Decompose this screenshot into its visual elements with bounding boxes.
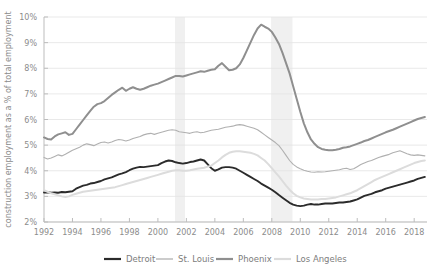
x-tick-label: 1992 <box>34 228 54 237</box>
y-tick-label: 2% <box>24 218 37 227</box>
series-line-st-louis <box>44 125 425 173</box>
x-tick-label: 1996 <box>91 228 111 237</box>
y-axis-title-text: construction employment as a % of total … <box>4 11 13 227</box>
y-tick-label: 6% <box>24 116 37 125</box>
x-axis-tick-labels: 1992199419961998200020022004200620082010… <box>34 228 425 237</box>
y-axis-title: construction employment as a % of total … <box>4 11 13 227</box>
y-tick-label: 5% <box>24 141 37 150</box>
legend-label-detroit[interactable]: Detroit <box>126 254 156 264</box>
x-tick-label: 2004 <box>205 228 225 237</box>
x-tick-label: 1994 <box>62 228 82 237</box>
legend-label-phoenix[interactable]: Phoenix <box>238 254 272 264</box>
line-chart: 2%3%4%5%6%7%8%9%10% 19921994199619982000… <box>0 0 431 270</box>
y-tick-label: 7% <box>24 90 37 99</box>
y-tick-label: 3% <box>24 192 37 201</box>
y-tick-label: 9% <box>24 39 37 48</box>
series-line-detroit <box>44 159 425 206</box>
y-tick-label: 10% <box>19 13 37 22</box>
x-tick-label: 2014 <box>347 228 367 237</box>
x-tick-label: 2010 <box>290 228 310 237</box>
gridlines <box>44 17 427 222</box>
x-tick-label: 2012 <box>319 228 339 237</box>
series-line-phoenix <box>44 25 425 151</box>
legend-label-los-angeles[interactable]: Los Angeles <box>296 254 347 264</box>
x-tick-label: 2016 <box>376 228 396 237</box>
x-tick-label: 2000 <box>148 228 168 237</box>
x-tick-label: 2006 <box>233 228 253 237</box>
chart-container: 2%3%4%5%6%7%8%9%10% 19921994199619982000… <box>0 0 431 270</box>
legend-label-st-louis[interactable]: St. Louis <box>178 254 215 264</box>
x-axis <box>44 218 427 222</box>
series-line-los-angeles <box>44 151 425 199</box>
chart-legend: DetroitSt. LouisPhoenixLos Angeles <box>104 254 347 264</box>
data-series-group <box>44 25 425 206</box>
x-tick-label: 1998 <box>119 228 139 237</box>
x-tick-label: 2002 <box>176 228 196 237</box>
y-tick-label: 8% <box>24 64 37 73</box>
x-tick-label: 2018 <box>404 228 424 237</box>
y-tick-label: 4% <box>24 167 37 176</box>
x-tick-label: 2008 <box>262 228 282 237</box>
